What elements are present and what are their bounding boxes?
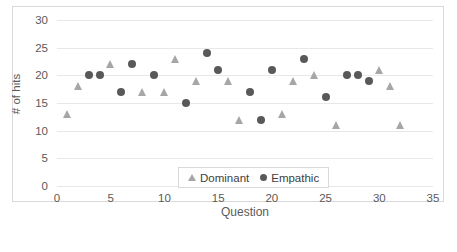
chart-screenshot: 051015202530 05101520253035 # of hits Qu…: [0, 0, 457, 252]
legend-label: Empathic: [271, 172, 319, 184]
triangle-marker-icon: [188, 174, 196, 181]
data-point-dominant: [310, 71, 318, 79]
x-axis-title: Question: [155, 205, 335, 219]
data-point-empathic: [268, 66, 276, 74]
legend-item-dominant[interactable]: Dominant: [188, 172, 249, 184]
data-point-dominant: [106, 60, 114, 68]
data-point-dominant: [224, 77, 232, 85]
data-point-dominant: [192, 77, 200, 85]
data-point-empathic: [365, 77, 373, 85]
data-point-dominant: [74, 82, 82, 90]
data-point-dominant: [171, 55, 179, 63]
data-point-dominant: [375, 66, 383, 74]
chart-legend[interactable]: DominantEmpathic: [178, 167, 329, 188]
data-point-dominant: [396, 121, 404, 129]
data-point-dominant: [235, 116, 243, 124]
data-point-empathic: [182, 99, 190, 107]
data-point-dominant: [278, 110, 286, 118]
data-point-dominant: [160, 88, 168, 96]
data-point-dominant: [138, 88, 146, 96]
data-point-dominant: [386, 82, 394, 90]
data-point-empathic: [257, 116, 265, 124]
legend-label: Dominant: [200, 172, 249, 184]
data-point-empathic: [300, 55, 308, 63]
legend-item-empathic[interactable]: Empathic: [260, 172, 319, 184]
circle-marker-icon: [260, 174, 267, 181]
data-point-dominant: [332, 121, 340, 129]
data-point-dominant: [289, 77, 297, 85]
data-point-empathic: [214, 66, 222, 74]
data-point-empathic: [150, 71, 158, 79]
data-point-dominant: [63, 110, 71, 118]
